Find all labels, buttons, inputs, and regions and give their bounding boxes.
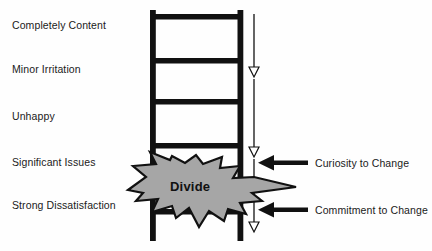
callout-label-commitment-to-change: Commitment to Change [315, 204, 428, 216]
divide-label: Divide [170, 179, 210, 194]
scale-label-significant-issues: Significant Issues [12, 156, 96, 168]
scale-label-strong-dissatisfaction: Strong Dissatisfaction [12, 199, 116, 211]
ladder-rung-4 [150, 143, 243, 149]
axis-arrowhead-3-icon [249, 222, 259, 232]
curiosity-arrow-icon [258, 155, 308, 171]
axis-arrowhead-2-icon [249, 147, 259, 157]
scale-label-minor-irritation: Minor Irritation [12, 63, 81, 75]
scale-label-completely-content: Completely Content [12, 19, 106, 31]
ladder-rung-3 [150, 99, 243, 105]
ladder-rung-1 [150, 14, 243, 20]
axis-arrowhead-1-icon [249, 67, 259, 77]
ladder-rung-2 [150, 58, 243, 64]
commitment-arrow-icon [258, 202, 308, 218]
divide-diagram: Completely Content Minor Irritation Unha… [0, 0, 432, 251]
callout-label-curiosity-to-change: Curiosity to Change [315, 157, 409, 169]
scale-label-unhappy: Unhappy [12, 110, 55, 122]
